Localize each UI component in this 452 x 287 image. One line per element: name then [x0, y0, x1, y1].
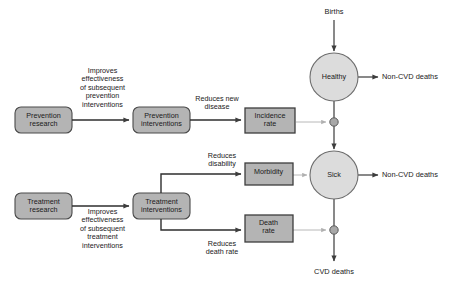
stock-sick-circle [310, 151, 358, 199]
arrow-treatment-interventions-to-deathrate [161, 219, 241, 230]
valve-death [330, 226, 338, 234]
valve-incidence [330, 118, 338, 126]
box-prevention-research [15, 107, 72, 133]
stock-healthy-circle [310, 53, 358, 101]
box-incidence-rate [245, 108, 295, 133]
box-morbidity [245, 163, 293, 185]
box-prevention-interventions [133, 107, 190, 133]
box-treatment-research [15, 193, 72, 219]
arrow-treatment-interventions-to-morbidity [161, 174, 241, 193]
box-death-rate [245, 215, 293, 242]
box-treatment-interventions [133, 193, 190, 219]
diagram-canvas: Prevention research Prevention intervent… [0, 0, 452, 287]
diagram-graphics [0, 0, 452, 287]
